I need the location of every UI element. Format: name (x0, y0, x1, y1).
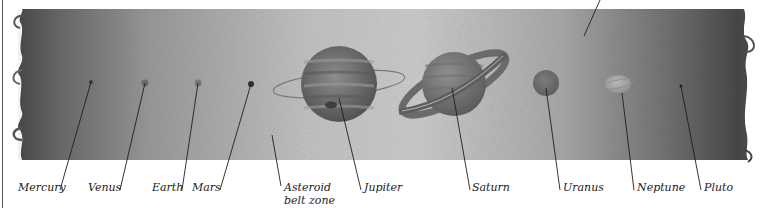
saturn-label: Saturn (472, 181, 510, 194)
asteroid-belt-label-line: Asteroid (284, 181, 344, 194)
diagram-artwork (0, 0, 760, 208)
space-band (13, 9, 754, 162)
earth-label: Earth (152, 181, 183, 194)
asteroid-belt-label: Asteroidbelt zone (284, 181, 344, 207)
uranus-label: Uranus (563, 181, 604, 194)
great-red-spot (325, 102, 337, 109)
mars-label: Mars (192, 181, 221, 194)
jupiter-planet (301, 46, 377, 122)
jupiter-label: Jupiter (364, 181, 402, 194)
solar-system-diagram: MercuryVenusEarthMarsAsteroidbelt zoneJu… (0, 0, 760, 208)
mercury-label: Mercury (18, 181, 66, 194)
venus-label: Venus (88, 181, 121, 194)
asteroid-belt-label-line: belt zone (284, 194, 344, 207)
neptune-label: Neptune (637, 181, 685, 194)
pluto-label: Pluto (704, 181, 733, 194)
uranus-planet (533, 70, 559, 96)
